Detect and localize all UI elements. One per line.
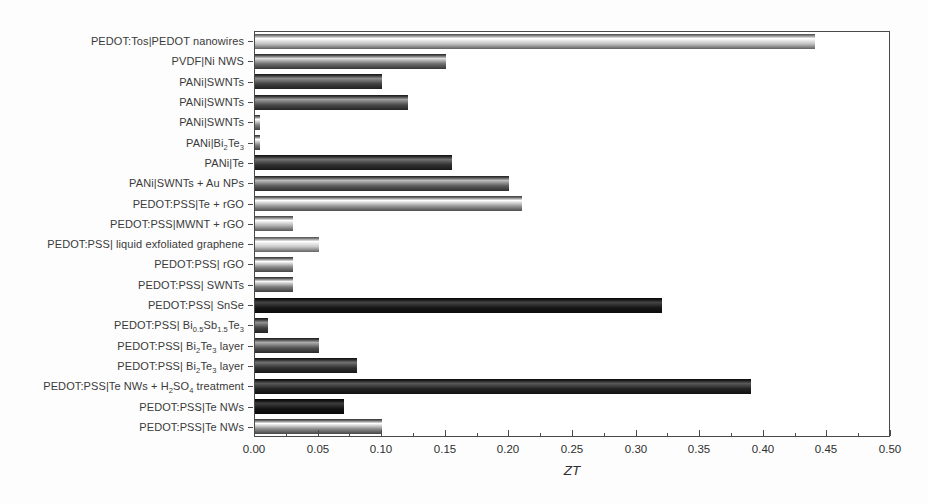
y-axis-tick bbox=[248, 305, 253, 306]
y-axis-tick bbox=[248, 325, 253, 326]
category-label: PEDOT:PSS| liquid exfoliated graphene bbox=[0, 234, 244, 254]
x-axis-minor-tick bbox=[540, 433, 541, 436]
y-axis-tick bbox=[248, 346, 253, 347]
x-axis-tick bbox=[890, 430, 891, 436]
bar bbox=[255, 257, 293, 272]
bar bbox=[255, 318, 268, 333]
y-axis-tick bbox=[248, 285, 253, 286]
bar-chart-figure: ZT PEDOT:Tos|PEDOT nanowiresPVDF|Ni NWSP… bbox=[0, 0, 928, 504]
y-axis-tick bbox=[248, 264, 253, 265]
y-axis-tick bbox=[248, 102, 253, 103]
x-axis-minor-tick bbox=[349, 433, 350, 436]
bar bbox=[255, 155, 452, 170]
bar bbox=[255, 338, 319, 353]
category-label: PVDF|Ni NWS bbox=[0, 51, 244, 71]
x-axis-tick bbox=[381, 430, 382, 436]
category-label: PEDOT:PSS| SnSe bbox=[0, 295, 244, 315]
x-tick-label: 0.45 bbox=[804, 443, 848, 455]
x-tick-label: 0.40 bbox=[741, 443, 785, 455]
y-axis-tick bbox=[248, 407, 253, 408]
x-axis-minor-tick bbox=[604, 433, 605, 436]
bar bbox=[255, 115, 260, 130]
bar bbox=[255, 298, 662, 313]
y-axis-tick bbox=[248, 366, 253, 367]
x-axis-minor-tick bbox=[731, 433, 732, 436]
x-axis-tick bbox=[763, 430, 764, 436]
x-axis-tick bbox=[572, 430, 573, 436]
x-axis-minor-tick bbox=[795, 433, 796, 436]
x-axis-minor-tick bbox=[477, 433, 478, 436]
y-axis-tick bbox=[248, 224, 253, 225]
x-tick-label: 0.35 bbox=[677, 443, 721, 455]
x-tick-label: 0.20 bbox=[486, 443, 530, 455]
bar bbox=[255, 34, 815, 49]
category-label: PEDOT:PSS| Bi2Te3 layer bbox=[0, 336, 244, 356]
bar bbox=[255, 237, 319, 252]
x-axis-tick bbox=[445, 430, 446, 436]
y-axis-tick bbox=[248, 61, 253, 62]
category-label: PEDOT:PSS| Bi2Te3 layer bbox=[0, 356, 244, 376]
x-axis-title: ZT bbox=[254, 463, 890, 478]
bar bbox=[255, 176, 509, 191]
bar bbox=[255, 54, 446, 69]
category-label: PANi|Bi2Te3 bbox=[0, 133, 244, 153]
category-label: PEDOT:PSS|MWNT + rGO bbox=[0, 214, 244, 234]
y-axis-tick bbox=[248, 427, 253, 428]
y-axis-tick bbox=[248, 82, 253, 83]
x-axis-tick bbox=[508, 430, 509, 436]
y-axis-tick bbox=[248, 244, 253, 245]
category-label: PEDOT:PSS| rGO bbox=[0, 254, 244, 274]
category-label: PANi|SWNTs bbox=[0, 92, 244, 112]
y-axis-tick bbox=[248, 204, 253, 205]
category-label: PANi|SWNTs bbox=[0, 72, 244, 92]
category-label: PEDOT:Tos|PEDOT nanowires bbox=[0, 31, 244, 51]
y-axis-tick bbox=[248, 143, 253, 144]
x-axis-minor-tick bbox=[413, 433, 414, 436]
category-label: PEDOT:PSS| Bi0.5Sb1.5Te3 bbox=[0, 315, 244, 335]
x-axis-tick bbox=[318, 430, 319, 436]
x-axis-tick bbox=[636, 430, 637, 436]
x-tick-label: 0.15 bbox=[423, 443, 467, 455]
category-label: PEDOT:PSS|Te + rGO bbox=[0, 194, 244, 214]
bar bbox=[255, 277, 293, 292]
category-label: PANi|SWNTs + Au NPs bbox=[0, 173, 244, 193]
category-label: PEDOT:PSS|Te NWs bbox=[0, 417, 244, 437]
y-axis-tick bbox=[248, 41, 253, 42]
y-axis-tick bbox=[248, 386, 253, 387]
x-axis-tick bbox=[254, 430, 255, 436]
x-axis-minor-tick bbox=[667, 433, 668, 436]
y-axis-tick bbox=[248, 122, 253, 123]
bar bbox=[255, 95, 408, 110]
bar bbox=[255, 216, 293, 231]
category-label: PEDOT:PSS|Te NWs bbox=[0, 397, 244, 417]
x-tick-label: 0.50 bbox=[868, 443, 912, 455]
bar bbox=[255, 358, 357, 373]
x-axis-minor-tick bbox=[286, 433, 287, 436]
x-axis-tick bbox=[826, 430, 827, 436]
y-axis-tick bbox=[248, 163, 253, 164]
category-label: PANi|Te bbox=[0, 153, 244, 173]
bar bbox=[255, 196, 522, 211]
plot-area bbox=[254, 31, 890, 437]
category-label: PEDOT:PSS| SWNTs bbox=[0, 275, 244, 295]
bar bbox=[255, 379, 751, 394]
x-tick-label: 0.05 bbox=[296, 443, 340, 455]
x-tick-label: 0.10 bbox=[359, 443, 403, 455]
x-tick-label: 0.25 bbox=[550, 443, 594, 455]
x-tick-label: 0.30 bbox=[614, 443, 658, 455]
x-axis-tick bbox=[699, 430, 700, 436]
bar bbox=[255, 74, 382, 89]
category-label: PANi|SWNTs bbox=[0, 112, 244, 132]
y-axis-tick bbox=[248, 183, 253, 184]
x-tick-label: 0.00 bbox=[232, 443, 276, 455]
bar bbox=[255, 135, 260, 150]
x-axis-minor-tick bbox=[858, 433, 859, 436]
category-label: PEDOT:PSS|Te NWs + H2SO4 treatment bbox=[0, 376, 244, 396]
bar bbox=[255, 399, 344, 414]
